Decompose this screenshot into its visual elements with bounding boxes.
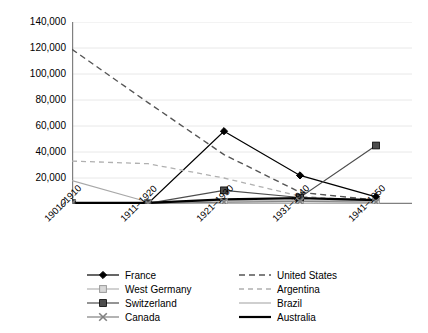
legend-swatch-australia <box>238 310 272 324</box>
legend-item-west-germany[interactable]: West Germany <box>86 282 236 296</box>
legend-label: Brazil <box>277 298 302 309</box>
y-tick-label: 20,000 <box>4 173 66 183</box>
legend-swatch-holder <box>238 268 272 282</box>
legend-swatch-argentina <box>238 282 272 296</box>
legend-swatch-brazil <box>238 296 272 310</box>
y-tick-label: 60,000 <box>4 121 66 131</box>
legend-swatch-holder <box>238 282 272 296</box>
legend-swatch-holder <box>86 310 120 324</box>
legend-item-switzerland[interactable]: Switzerland <box>86 296 236 310</box>
legend-column-left: FranceWest GermanySwitzerlandCanada <box>86 268 236 324</box>
line-chart: 020,00040,00060,00080,000100,000120,0001… <box>0 0 428 333</box>
legend-label: France <box>125 270 156 281</box>
y-tick-label: 100,000 <box>4 69 66 79</box>
y-tick-label: 80,000 <box>4 95 66 105</box>
legend-item-canada[interactable]: Canada <box>86 310 236 324</box>
marker-switzerland <box>373 142 380 149</box>
plot-area <box>72 22 412 204</box>
legend-swatch-holder <box>238 310 272 324</box>
legend-swatch-canada <box>86 310 120 324</box>
x-axis: 1901–19101911–19201921–19301931–19401941… <box>72 206 417 262</box>
legend-item-france[interactable]: France <box>86 268 236 282</box>
y-tick-label: 40,000 <box>4 147 66 157</box>
y-tick-label: 120,000 <box>4 43 66 53</box>
legend-swatch-holder <box>86 268 120 282</box>
y-tick-label: 140,000 <box>4 17 66 27</box>
legend-item-australia[interactable]: Australia <box>238 310 388 324</box>
legend-swatch-holder <box>238 296 272 310</box>
legend-label: Canada <box>125 312 160 323</box>
legend-marker <box>100 300 107 307</box>
legend-swatch-switzerland <box>86 296 120 310</box>
legend-swatch-france <box>86 268 120 282</box>
legend: FranceWest GermanySwitzerlandCanada Unit… <box>86 268 386 328</box>
legend-item-brazil[interactable]: Brazil <box>238 296 388 310</box>
legend-swatch-united-states <box>238 268 272 282</box>
legend-label: Switzerland <box>125 298 177 309</box>
legend-item-argentina[interactable]: Argentina <box>238 282 388 296</box>
legend-label: Argentina <box>277 284 320 295</box>
legend-swatch-holder <box>86 296 120 310</box>
legend-marker <box>100 286 107 293</box>
legend-swatch-holder <box>86 282 120 296</box>
legend-label: West Germany <box>125 284 192 295</box>
y-axis: 020,00040,00060,00080,000100,000120,0001… <box>0 22 66 204</box>
legend-column-right: United StatesArgentinaBrazilAustralia <box>238 268 388 324</box>
plot-svg <box>72 22 412 204</box>
legend-swatch-west-germany <box>86 282 120 296</box>
legend-item-united-states[interactable]: United States <box>238 268 388 282</box>
legend-label: United States <box>277 270 337 281</box>
legend-label: Australia <box>277 312 316 323</box>
legend-marker <box>99 271 106 278</box>
